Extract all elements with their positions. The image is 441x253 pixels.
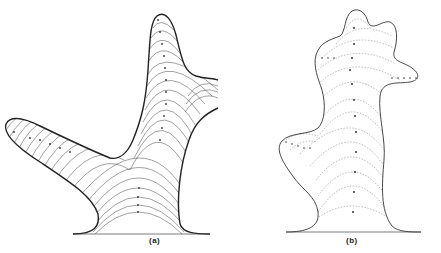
panel-b-outline (279, 10, 421, 232)
panel-b (279, 10, 421, 232)
panel-a-outline (6, 14, 218, 234)
panel-a-growth-arcs (6, 22, 218, 234)
figure-drawing (0, 0, 441, 253)
panel-a-label: (a) (149, 236, 160, 245)
panel-a (6, 14, 218, 234)
panel-a-midline-dots (13, 19, 167, 213)
figure: (a) (b) (0, 0, 441, 253)
panel-b-midline-dots (285, 27, 417, 213)
panel-b-growth-arcs (286, 19, 405, 232)
panel-b-label: (b) (346, 236, 358, 245)
